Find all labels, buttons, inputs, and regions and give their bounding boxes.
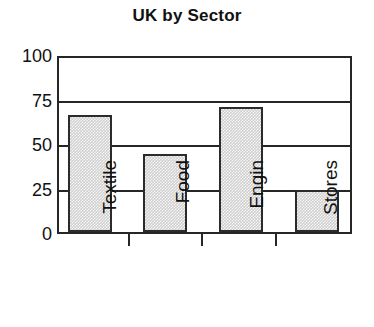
gridline-75: [59, 101, 350, 103]
x-tick-label-textile: Textile: [99, 160, 121, 244]
x-axis-tick-labels: Textile Food Engin Stores: [0, 234, 374, 327]
y-tick-label-75: 75: [5, 92, 52, 110]
y-axis-tick-labels: 100 75 50 25 0: [0, 56, 52, 234]
y-tick-label-25: 25: [5, 181, 52, 199]
chart-title: UK by Sector: [0, 6, 374, 26]
x-tick-label-stores: Stores: [320, 160, 342, 244]
y-tick-label-100: 100: [5, 47, 52, 65]
y-tick-label-50: 50: [5, 136, 52, 154]
bar-chart-figure: UK by Sector 100 75 50 25 0 Textile Food…: [0, 0, 374, 327]
x-tick-label-engin: Engin: [246, 160, 268, 244]
x-tick-label-food: Food: [172, 160, 194, 244]
